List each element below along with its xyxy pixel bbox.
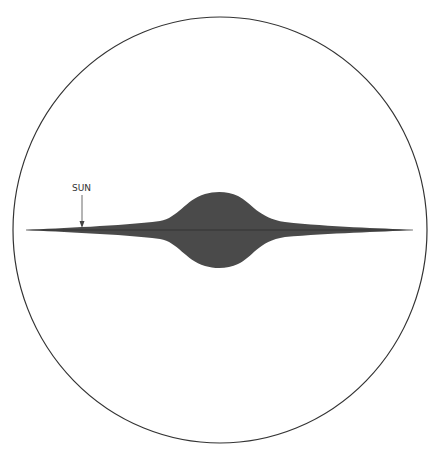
sun-label: SUN <box>72 183 91 193</box>
arrow-head-icon <box>80 221 85 228</box>
galaxy-diagram: SUN <box>0 0 439 456</box>
